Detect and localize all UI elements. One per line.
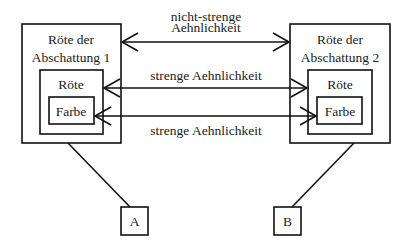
right-core-label: Farbe — [325, 104, 356, 119]
right-outer-label-2: Abschattung 2 — [301, 50, 379, 65]
arrow-nicht-strenge — [122, 33, 289, 51]
relation-3-label: strenge Aehnlichkeit — [150, 123, 262, 138]
relation-2-label: strenge Aehnlichkeit — [150, 68, 262, 83]
left-core-label: Farbe — [56, 104, 87, 119]
relation-1-label-2: Aehnlichkeit — [171, 20, 241, 35]
right-outer-label-1: Röte der — [317, 32, 364, 47]
left-inner-label: Röte — [58, 77, 84, 92]
diagram-canvas: Röte der Abschattung 1 Röte Farbe Röte d… — [0, 0, 413, 249]
left-outer-label-2: Abschattung 1 — [32, 50, 110, 65]
left-outer-label-1: Röte der — [48, 32, 95, 47]
right-inner-label: Röte — [327, 77, 353, 92]
observer-b-label: B — [283, 214, 292, 229]
observer-a-label: A — [130, 214, 140, 229]
connector-left — [68, 143, 130, 207]
connector-right — [292, 143, 354, 207]
